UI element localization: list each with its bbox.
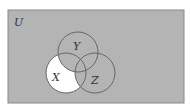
set-x-label: X — [51, 71, 61, 84]
venn-diagram: U Y X Z — [0, 0, 191, 108]
set-z-label: Z — [90, 74, 99, 87]
universe-label: U — [14, 16, 24, 29]
universe-rect — [8, 10, 184, 103]
